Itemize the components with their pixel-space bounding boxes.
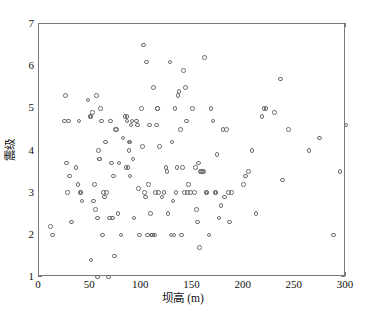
scatter-point [48,224,53,229]
scatter-point [250,148,255,153]
scatter-point [126,165,131,170]
scatter-point [102,195,107,200]
scatter-point [260,114,265,119]
scatter-point [209,106,214,111]
scatter-point [166,211,171,216]
scatter-point [117,161,122,166]
scatter-point [112,254,117,259]
scatter-point [243,174,248,179]
plot-area [38,23,345,276]
x-axis-tick-label: 200 [234,278,251,290]
scatter-point [139,106,144,111]
scatter-point [100,233,105,238]
scatter-point [155,106,160,111]
y-axis-tick-label: 3 [20,186,34,198]
scatter-point [181,68,186,73]
scatter-point [241,182,246,187]
scatter-point [50,233,55,238]
x-axis-tick-label: 50 [84,278,95,290]
scatter-point [91,199,96,204]
scatter-point [79,190,84,195]
x-axis-title: 坝高 (m) [0,291,366,305]
x-axis-tick [345,23,346,27]
scatter-point [121,136,126,141]
scatter-point [131,157,136,162]
scatter-point [114,127,119,132]
scatter-point [178,127,183,132]
scatter-point [96,148,101,153]
scatter-point [154,123,159,128]
scatter-point [227,220,232,225]
scatter-point [89,258,94,263]
scatter-point [211,119,216,124]
scatter-point [95,275,100,280]
x-axis-tick-label: 150 [183,278,200,290]
scatter-point [184,119,189,124]
scatter-point [135,123,140,128]
scatter-point [95,216,100,221]
scatter-point [177,89,182,94]
scatter-point [224,127,229,132]
scatter-point [128,140,133,145]
x-axis-tick-label: 300 [337,278,354,290]
scatter-point [89,114,94,119]
scatter-point [280,178,285,183]
scatter-point [197,245,202,250]
scatter-point [195,220,200,225]
scatter-point [229,190,234,195]
scatter-point [192,190,197,195]
scatter-point [207,233,212,238]
scatter-point [219,203,224,208]
scatter-point [307,148,312,153]
y-axis-tick-label: 2 [20,228,34,240]
scatter-point [201,169,206,174]
scatter-points-layer [39,24,344,275]
scatter-chart-figure: 050100150200250300 1234567 坝高 (m) 震级 [0,0,366,311]
scatter-point [136,186,141,191]
y-axis-tick-label: 5 [20,101,34,113]
scatter-point [65,190,70,195]
scatter-point [103,140,108,145]
scatter-point [66,119,71,124]
scatter-point [172,233,177,238]
scatter-point [146,182,151,187]
scatter-point [186,182,191,187]
scatter-point [67,174,72,179]
scatter-point [246,169,251,174]
scatter-point [202,55,207,60]
scatter-point [180,165,185,170]
scatter-point [165,169,170,174]
scatter-point [317,136,322,141]
scatter-point [338,169,343,174]
x-axis-tick-label: 0 [35,278,41,290]
scatter-point [92,182,97,187]
y-axis-tick-label: 1 [20,270,34,282]
scatter-point [94,93,99,98]
scatter-point [214,190,219,195]
scatter-point [132,216,137,221]
scatter-point [63,93,68,98]
scatter-point [111,174,116,179]
scatter-point [106,275,111,280]
y-axis-tick-label: 7 [20,17,34,29]
scatter-point [173,106,178,111]
scatter-point [129,123,134,128]
scatter-point [148,211,153,216]
scatter-point [196,161,201,166]
scatter-point [119,233,124,238]
scatter-point [344,123,349,128]
y-axis-tick [38,276,42,277]
scatter-point [128,174,133,179]
scatter-point [160,195,165,200]
scatter-point [108,119,113,124]
scatter-point [175,165,180,170]
scatter-point [171,199,176,204]
scatter-point [143,195,148,200]
scatter-point [264,106,269,111]
scatter-point [144,60,149,65]
scatter-point [179,233,184,238]
scatter-point [157,144,162,149]
scatter-point [152,233,157,238]
x-axis-tick [345,272,346,276]
scatter-point [127,148,132,153]
